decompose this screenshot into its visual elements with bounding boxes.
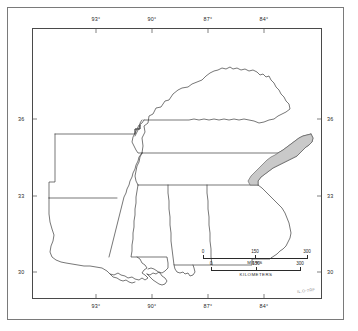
map-figure: 93° 90° 87° 84° 93° 90° 87° 84° 36 33 30… [0, 0, 358, 331]
scale-km-unit: KILOMETERS [240, 272, 273, 277]
graticule-ticks [0, 0, 358, 331]
scale-miles-tick-1: 150 [251, 249, 259, 254]
scale-km-tick-1: 150 [252, 261, 260, 266]
scale-km-tick-0: 0 [210, 261, 213, 266]
scale-miles-tick-0: 0 [202, 249, 205, 254]
scale-miles-tick-2: 300 [303, 249, 311, 254]
scale-km-tick-2: 300 [296, 261, 304, 266]
